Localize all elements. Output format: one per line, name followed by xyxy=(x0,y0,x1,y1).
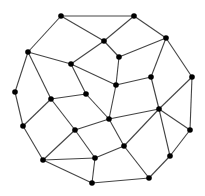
edge-K-P xyxy=(15,92,23,126)
node-H xyxy=(148,74,154,80)
edge-F-J xyxy=(71,64,116,85)
edge-A-E xyxy=(28,16,61,52)
node-Q xyxy=(72,127,78,133)
edge-F-M xyxy=(71,64,86,94)
edge-O-Q xyxy=(75,119,109,130)
edge-W-X xyxy=(92,178,149,183)
node-N xyxy=(156,106,162,112)
node-O xyxy=(106,116,112,122)
graph-diagram xyxy=(0,0,205,196)
node-S xyxy=(121,143,127,149)
node-C xyxy=(101,38,107,44)
node-T xyxy=(167,153,173,159)
edge-C-G xyxy=(104,41,119,57)
node-I xyxy=(189,74,195,80)
edge-G-J xyxy=(116,57,119,85)
edge-M-O xyxy=(86,94,109,119)
edge-U-X xyxy=(43,160,92,183)
edge-I-R xyxy=(190,77,192,130)
node-E xyxy=(25,49,31,55)
edge-B-D xyxy=(134,16,166,38)
node-A xyxy=(58,13,64,19)
edge-Q-V xyxy=(75,130,95,158)
edge-U-V xyxy=(43,158,95,160)
node-K xyxy=(12,89,18,95)
edge-E-L xyxy=(28,52,51,99)
node-D xyxy=(163,35,169,41)
edge-A-C xyxy=(61,16,104,41)
edge-Q-U xyxy=(43,130,75,160)
node-V xyxy=(92,155,98,161)
edge-V-X xyxy=(92,158,95,183)
edge-D-H xyxy=(151,38,166,77)
edge-B-C xyxy=(104,16,134,41)
edge-O-S xyxy=(109,119,124,146)
node-U xyxy=(40,157,46,163)
edge-D-G xyxy=(119,38,166,57)
edge-I-N xyxy=(159,77,192,109)
edge-C-F xyxy=(71,41,104,64)
node-P xyxy=(20,123,26,129)
node-R xyxy=(187,127,193,133)
edge-J-H xyxy=(116,77,151,85)
edge-N-T xyxy=(159,109,170,156)
node-L xyxy=(48,96,54,102)
edge-S-V xyxy=(95,146,124,158)
node-G xyxy=(116,54,122,60)
edge-E-K xyxy=(15,52,28,92)
edge-E-F xyxy=(28,52,71,64)
edge-J-O xyxy=(109,85,116,119)
node-X xyxy=(89,180,95,186)
edge-L-Q xyxy=(51,99,75,130)
edge-P-U xyxy=(23,126,43,160)
node-J xyxy=(113,82,119,88)
edge-H-N xyxy=(151,77,159,109)
node-F xyxy=(68,61,74,67)
edge-T-W xyxy=(149,156,170,178)
edge-L-M xyxy=(51,94,86,99)
node-M xyxy=(83,91,89,97)
edge-D-I xyxy=(166,38,192,77)
edge-L-P xyxy=(23,99,51,126)
edge-S-W xyxy=(124,146,149,178)
node-W xyxy=(146,175,152,181)
edge-R-T xyxy=(170,130,190,156)
node-B xyxy=(131,13,137,19)
